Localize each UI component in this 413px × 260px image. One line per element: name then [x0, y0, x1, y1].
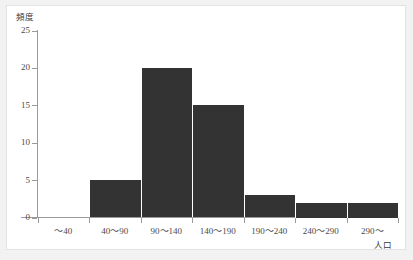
y-tick-mark	[32, 105, 37, 106]
x-tick-mark	[398, 218, 399, 223]
y-tick-label-text: 25	[4, 26, 30, 35]
x-tick-label: 240～290	[295, 226, 347, 236]
y-tick-mark	[32, 143, 37, 144]
x-tick-label: 40～90	[89, 226, 141, 236]
y-tick-mark	[32, 68, 37, 69]
histogram-bar	[347, 203, 399, 218]
histogram-bar	[295, 203, 347, 218]
x-tick-mark	[244, 218, 245, 223]
y-tick-label: 15	[0, 101, 30, 110]
histogram-bar	[89, 180, 141, 217]
x-tick-mark	[141, 218, 142, 223]
x-tick-label: 140～190	[192, 226, 244, 236]
x-tick-mark	[295, 218, 296, 223]
x-tick-label: ～40	[38, 226, 90, 236]
y-tick-label: 10	[0, 138, 30, 147]
y-tick-mark	[32, 218, 37, 219]
y-tick-label-text: 10	[4, 138, 30, 147]
histogram-bar	[141, 68, 193, 218]
y-tick-label: 25	[0, 26, 30, 35]
y-tick-mark	[32, 180, 37, 181]
chart-canvas: 頻度 人口 0510152025 ～4040～9090～140140～19019…	[0, 0, 413, 260]
x-tick-label: 290～	[347, 226, 399, 236]
y-tick-label-text: 15	[4, 101, 30, 110]
x-tick-mark	[347, 218, 348, 223]
x-tick-mark	[38, 218, 39, 223]
y-tick-label-text: 5	[4, 176, 30, 185]
y-axis-line	[37, 30, 38, 218]
x-tick-mark	[192, 218, 193, 223]
histogram-bar	[192, 105, 244, 217]
y-tick-label-text: 0	[4, 213, 30, 222]
y-tick-label-text: 20	[4, 63, 30, 72]
histogram-bar	[244, 195, 296, 217]
plot-area: 0510152025 ～4040～9090～140140～190190～2402…	[0, 0, 413, 260]
y-tick-label: 20	[0, 63, 30, 72]
y-tick-mark	[32, 31, 37, 32]
x-tick-mark	[89, 218, 90, 223]
y-tick-label: 0	[0, 213, 30, 222]
y-tick-label: 5	[0, 176, 30, 185]
x-tick-label: 190～240	[244, 226, 296, 236]
x-tick-label: 90～140	[141, 226, 193, 236]
